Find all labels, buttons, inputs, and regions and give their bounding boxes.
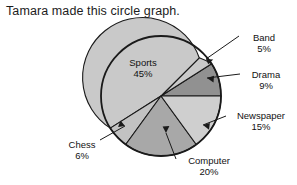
slice-label-chess: Chess 6% [62,139,102,161]
slice-label-band-name: Band [242,32,286,43]
slice-label-chess-percent: 6% [62,150,102,161]
slice-label-newspaper-name: Newspaper [228,110,294,121]
slice-label-computer: Computer 20% [178,155,240,177]
circle-graph [0,0,297,185]
slice-label-computer-name: Computer [178,155,240,166]
slice-label-sports-name: Sports [118,57,168,68]
slice-label-sports-percent: 45% [118,68,168,79]
slice-label-band-percent: 5% [242,43,286,54]
slice-label-chess-name: Chess [62,139,102,150]
slice-label-newspaper: Newspaper 15% [228,110,294,132]
worksheet-page: Tamara made this circle graph. [0,0,297,185]
slice-label-drama: Drama 9% [243,69,289,91]
slice-label-drama-percent: 9% [243,80,289,91]
slice-label-sports: Sports 45% [118,57,168,79]
slice-label-computer-percent: 20% [178,166,240,177]
pie-slices [83,18,221,156]
slice-label-drama-name: Drama [243,69,289,80]
slice-label-band: Band 5% [242,32,286,54]
leader-band [206,36,239,59]
slice-label-newspaper-percent: 15% [228,121,294,132]
